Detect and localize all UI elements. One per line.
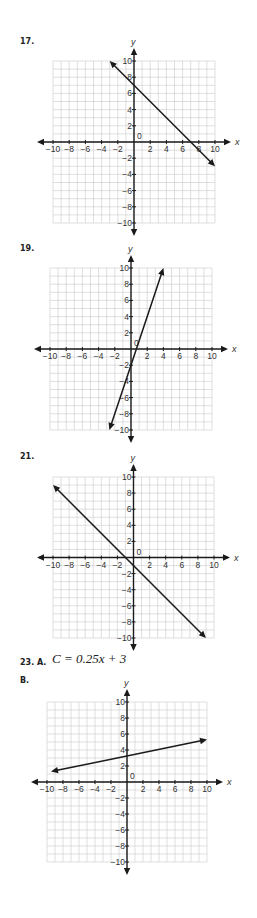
x-tick-label: 2 (141, 784, 146, 794)
y-tick-label: −4 (115, 809, 125, 819)
y-tick-label: 8 (120, 713, 125, 723)
y-tick-label: 4 (120, 745, 125, 755)
y-axis-label: y (123, 678, 129, 688)
x-axis-left-arrow-icon (31, 779, 38, 785)
x-axis-label: x (226, 777, 232, 787)
x-tick-label: 10 (202, 784, 212, 794)
x-tick-label: 6 (173, 784, 178, 794)
y-axis-down-arrow-icon (124, 868, 130, 875)
origin-label: 0 (130, 771, 135, 781)
y-tick-label: 2 (120, 761, 125, 771)
x-tick-label: −8 (58, 784, 68, 794)
line-end-arrow-icon (199, 738, 207, 744)
x-tick-label: 8 (189, 784, 194, 794)
y-tick-label: −8 (115, 841, 125, 851)
y-tick-label: −6 (115, 825, 125, 835)
x-tick-label: 4 (157, 784, 162, 794)
graph-23: xy0−10−8−6−4−2246810−10−8−6−4−2246810 (0, 0, 257, 918)
x-tick-label: −4 (90, 784, 100, 794)
y-tick-label: 10 (116, 697, 126, 707)
y-axis-up-arrow-icon (124, 689, 130, 696)
x-axis-right-arrow-icon (216, 779, 223, 785)
y-tick-label: 6 (120, 729, 125, 739)
y-tick-label: −10 (111, 857, 126, 867)
x-tick-label: −6 (74, 784, 84, 794)
x-tick-label: −10 (40, 784, 55, 794)
y-tick-label: −2 (115, 793, 125, 803)
